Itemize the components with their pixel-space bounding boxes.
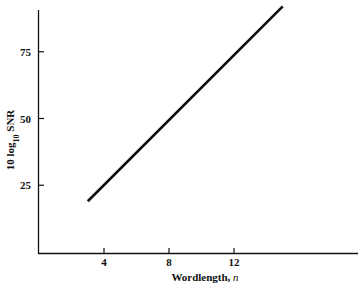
series-line: [88, 6, 283, 201]
y-tick-label: 25: [20, 179, 32, 191]
data-series: [88, 6, 283, 201]
x-ticks: 4812: [101, 248, 240, 268]
x-tick-label: 8: [166, 256, 172, 268]
x-tick-label: 12: [229, 256, 241, 268]
y-axis-label: 10 log10 SNR: [4, 109, 21, 171]
y-tick-label: 75: [20, 46, 32, 58]
x-axis-label: Wordlength, n: [171, 271, 239, 283]
y-ticks: 255075: [20, 46, 44, 192]
y-tick-label: 50: [20, 113, 32, 125]
snr-chart: 255075 4812 10 log10 SNR Wordlength, n: [0, 0, 362, 290]
x-tick-label: 4: [101, 256, 107, 268]
